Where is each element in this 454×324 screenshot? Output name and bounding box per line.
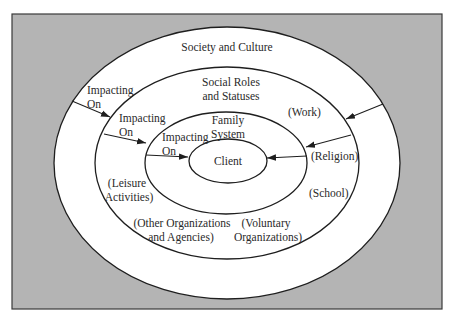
social-roles-label-line1: Social Roles (202, 76, 260, 88)
leisure-label-line1: (Leisure (108, 177, 146, 190)
school-label: (School) (309, 187, 349, 200)
impacting-on-label-1-line2: On (87, 98, 101, 110)
ecological-systems-diagram: Society and Culture Social Roles and Sta… (0, 0, 454, 324)
impacting-on-label-2-line1: Impacting (119, 112, 166, 125)
client-label: Client (214, 155, 243, 167)
social-roles-label-line2: and Statuses (202, 90, 260, 102)
other-orgs-label-line2: and Agencies) (148, 231, 214, 244)
impacting-on-label-1-line1: Impacting (87, 84, 134, 97)
leisure-label-line2: Activities) (105, 191, 154, 204)
work-label: (Work) (288, 106, 321, 119)
impacting-on-label-3-line1: Impacting (162, 131, 209, 144)
impacting-on-label-2-line2: On (119, 126, 133, 138)
society-culture-label: Society and Culture (181, 41, 272, 54)
voluntary-label-line1: (Voluntary (242, 217, 291, 230)
family-system-label-line1: Family (212, 114, 245, 127)
religion-label: (Religion) (311, 150, 358, 163)
impacting-on-label-3-line2: On (162, 145, 176, 157)
diagram-canvas: Society and Culture Social Roles and Sta… (0, 0, 454, 324)
other-orgs-label-line1: (Other Organizations (133, 217, 231, 230)
voluntary-label-line2: Organizations) (234, 231, 302, 244)
family-system-label-line2: System (211, 128, 245, 141)
